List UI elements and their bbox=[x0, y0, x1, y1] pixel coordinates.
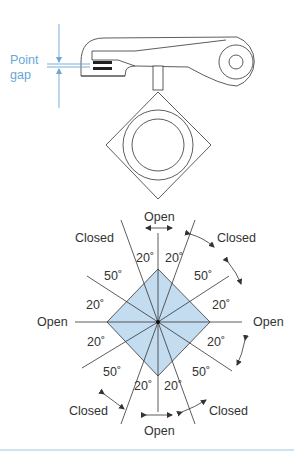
point-gap-label-line1: Point bbox=[10, 53, 39, 67]
distributor-dwell-figure: Point gap bbox=[0, 0, 294, 458]
label-closed-bottom-left: Closed bbox=[69, 404, 108, 418]
angle-upper-right-50: 50˚ bbox=[194, 269, 212, 283]
distributor-cam bbox=[106, 92, 211, 199]
angle-right-upper-20: 20˚ bbox=[212, 298, 230, 312]
angle-bottom-left-20: 20˚ bbox=[134, 379, 152, 393]
angle-left-upper-20: 20˚ bbox=[86, 298, 104, 312]
label-closed-bottom-right: Closed bbox=[209, 404, 248, 418]
label-open-top: Open bbox=[144, 210, 175, 224]
angle-right-lower-20: 20˚ bbox=[207, 335, 225, 349]
label-closed-top-right: Closed bbox=[217, 231, 256, 245]
point-gap-label-line2: gap bbox=[10, 68, 31, 82]
label-open-left: Open bbox=[37, 315, 68, 329]
cam-center-dot bbox=[156, 320, 160, 324]
angle-upper-left-50: 50˚ bbox=[104, 269, 122, 283]
angle-lower-right-50: 50˚ bbox=[192, 365, 210, 379]
angle-top-left-20: 20˚ bbox=[136, 251, 154, 265]
bottom-divider bbox=[0, 449, 294, 451]
angle-left-lower-20: 20˚ bbox=[87, 335, 105, 349]
label-open-right: Open bbox=[253, 315, 284, 329]
label-open-bottom: Open bbox=[144, 424, 175, 438]
angle-top-right-20: 20˚ bbox=[165, 251, 183, 265]
breaker-points-assembly bbox=[81, 37, 254, 90]
label-closed-top-left: Closed bbox=[75, 231, 114, 245]
angle-lower-left-50: 50˚ bbox=[103, 365, 121, 379]
angle-bottom-right-20: 20˚ bbox=[164, 379, 182, 393]
dwell-angle-diagram: Open Open Open Open Closed Closed Closed… bbox=[37, 210, 284, 438]
